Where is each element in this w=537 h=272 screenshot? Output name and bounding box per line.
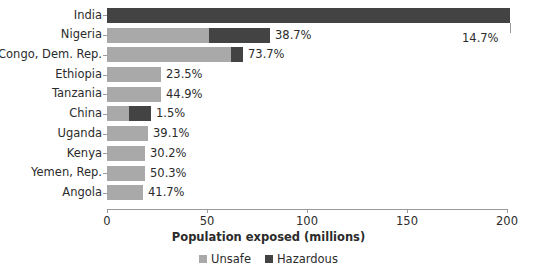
leader-line (510, 23, 511, 33)
chart-legend: UnsafeHazardous (0, 252, 537, 266)
data-label: 1.5% (156, 106, 185, 121)
chart-row: Uganda39.1% (0, 124, 537, 144)
chart-row: Angola41.7% (0, 183, 537, 203)
bar-segment-unsafe (107, 67, 161, 82)
x-tick (507, 209, 508, 213)
legend-swatch-icon (199, 255, 207, 263)
chart-row: China1.5% (0, 104, 537, 124)
bar-segment-unsafe (107, 146, 145, 161)
category-label-yemen-rep: Yemen, Rep. (31, 163, 102, 183)
chart-row: Tanzania44.9% (0, 84, 537, 104)
bar-segment-hazardous (231, 47, 243, 62)
bar-segment-hazardous (209, 28, 270, 43)
category-label-tanzania: Tanzania (52, 84, 102, 104)
data-label: 39.1% (153, 126, 190, 141)
bar-segment-unsafe (107, 106, 129, 121)
x-tick-label: 0 (103, 214, 110, 228)
legend-item-hazardous[interactable]: Hazardous (265, 252, 338, 266)
category-label-china: China (69, 104, 102, 124)
stacked-bar (107, 8, 510, 23)
x-tick (107, 209, 108, 213)
bar-segment-unsafe (107, 126, 148, 141)
legend-label: Hazardous (277, 252, 338, 266)
bar-segment-unsafe (107, 47, 231, 62)
x-tick-label: 50 (200, 214, 215, 228)
bar-segment-hazardous (129, 106, 151, 121)
bar-segment-unsafe (107, 185, 143, 200)
stacked-bar (107, 106, 151, 121)
x-tick (407, 209, 408, 213)
plot-area: India14.7%Nigeria38.7%Congo, Dem. Rep.73… (0, 0, 537, 210)
stacked-bar (107, 126, 148, 141)
data-label: 23.5% (166, 67, 203, 82)
legend-item-unsafe[interactable]: Unsafe (199, 252, 251, 266)
stacked-bar (107, 28, 270, 43)
data-label: 41.7% (148, 185, 185, 200)
category-label-nigeria: Nigeria (61, 25, 102, 45)
bar-segment-unsafe (107, 87, 161, 102)
chart-row: Ethiopia23.5% (0, 65, 537, 85)
category-label-uganda: Uganda (58, 124, 102, 144)
x-axis-title: Population exposed (millions) (0, 230, 537, 244)
data-label: 30.2% (150, 146, 187, 161)
data-label: 50.3% (150, 166, 187, 181)
chart-row: India14.7% (0, 6, 537, 26)
legend-swatch-icon (265, 255, 273, 263)
bar-segment-hazardous (107, 8, 510, 23)
stacked-bar (107, 185, 143, 200)
stacked-bar (107, 67, 161, 82)
x-tick-label: 100 (296, 214, 318, 228)
data-label: 73.7% (248, 47, 285, 62)
x-tick (207, 209, 208, 213)
data-label: 44.9% (166, 87, 203, 102)
stacked-bar (107, 47, 243, 62)
chart-row: Kenya30.2% (0, 144, 537, 164)
chart-row: Yemen, Rep.50.3% (0, 163, 537, 183)
stacked-bar (107, 146, 145, 161)
x-tick-label: 200 (496, 214, 518, 228)
x-tick-label: 150 (396, 214, 418, 228)
legend-label: Unsafe (211, 252, 251, 266)
x-tick (307, 209, 308, 213)
data-label: 38.7% (275, 28, 312, 43)
category-label-angola: Angola (62, 183, 102, 203)
stacked-bar-chart: India14.7%Nigeria38.7%Congo, Dem. Rep.73… (0, 0, 537, 272)
chart-row: Congo, Dem. Rep.73.7% (0, 45, 537, 65)
bar-segment-unsafe (107, 28, 209, 43)
category-label-congo-dem-rep: Congo, Dem. Rep. (0, 45, 102, 65)
stacked-bar (107, 166, 145, 181)
category-label-india: India (74, 6, 102, 26)
category-label-kenya: Kenya (67, 144, 102, 164)
category-label-ethiopia: Ethiopia (55, 65, 102, 85)
stacked-bar (107, 87, 161, 102)
chart-row: Nigeria38.7% (0, 25, 537, 45)
bar-segment-unsafe (107, 166, 145, 181)
